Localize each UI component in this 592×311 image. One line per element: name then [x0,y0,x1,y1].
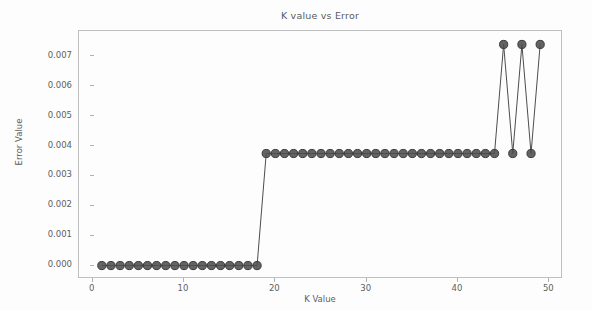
data-point [134,261,142,269]
x-tick-mark [92,278,93,282]
data-point [162,261,170,269]
y-tick-label: 0.002 [20,199,72,209]
data-point [180,261,188,269]
data-point [244,261,252,269]
data-point [198,261,206,269]
data-point [372,149,380,157]
x-tick-mark [366,278,367,282]
data-point [490,149,498,157]
data-point [125,261,133,269]
matplotlib-figure: K value vs Error Error Value 0.0000.0010… [0,0,592,311]
data-point [335,149,343,157]
data-point [481,149,489,157]
data-point [143,261,151,269]
data-point [426,149,434,157]
y-tick-label: 0.001 [20,229,72,239]
x-axis-label: K Value [78,294,562,304]
data-point [436,149,444,157]
x-tick-label: 50 [528,283,568,293]
x-tick-label: 30 [346,283,386,293]
series-plot [79,31,563,279]
data-point [454,149,462,157]
data-point [445,149,453,157]
y-tick-label: 0.006 [20,80,72,90]
y-tick-label: 0.000 [20,259,72,269]
data-point [527,149,535,157]
data-point [262,149,270,157]
data-point [399,149,407,157]
data-point [98,261,106,269]
data-point [381,149,389,157]
y-tick-label: 0.007 [20,50,72,60]
data-point [290,149,298,157]
data-point [116,261,124,269]
data-point [107,261,115,269]
data-point [253,261,261,269]
series-markers [98,40,545,269]
data-point [509,149,517,157]
data-point [536,40,544,48]
data-point [235,261,243,269]
chart-screenshot: K value vs Error Error Value 0.0000.0010… [0,0,592,311]
y-tick-label: 0.003 [20,169,72,179]
data-point [308,149,316,157]
y-axis-tick-labels: 0.0000.0010.0020.0030.0040.0050.0060.007 [16,0,72,311]
y-tick-label: 0.005 [20,110,72,120]
x-tick-label: 10 [163,283,203,293]
x-tick-label: 0 [72,283,112,293]
data-point [226,261,234,269]
x-tick-mark [274,278,275,282]
data-point [280,149,288,157]
data-point [317,149,325,157]
data-point [216,261,224,269]
data-point [353,149,361,157]
data-point [207,261,215,269]
x-tick-label: 40 [437,283,477,293]
x-tick-label: 20 [254,283,294,293]
data-point [408,149,416,157]
data-point [153,261,161,269]
y-tick-label: 0.004 [20,140,72,150]
data-point [518,40,526,48]
data-point [189,261,197,269]
data-point [271,149,279,157]
data-point [472,149,480,157]
data-point [326,149,334,157]
x-tick-mark [183,278,184,282]
chart-title: K value vs Error [78,10,562,21]
plot-area [78,30,562,278]
data-point [344,149,352,157]
data-point [500,40,508,48]
data-point [417,149,425,157]
data-point [463,149,471,157]
data-point [390,149,398,157]
x-tick-mark [548,278,549,282]
data-point [363,149,371,157]
data-point [299,149,307,157]
data-point [171,261,179,269]
x-tick-mark [457,278,458,282]
